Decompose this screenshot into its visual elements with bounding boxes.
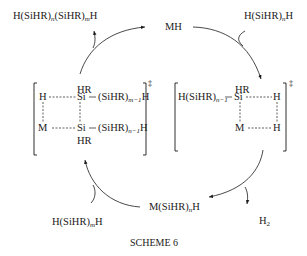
reactant-hydrosilane-m: H(SiHR)mH xyxy=(52,217,103,229)
arrow-top-to-right xyxy=(193,27,261,79)
scheme-caption: SCHEME 6 xyxy=(130,238,178,248)
reactant-hydrosilane-n: H(SiHR)nH xyxy=(244,11,293,23)
right-ts-si: Si xyxy=(234,92,243,103)
metal-silyl-intermediate: M(SiHR)nH xyxy=(149,202,200,214)
left-ts-chain-bottom: (SiHR)n−1H xyxy=(98,123,148,135)
left-ts-si-bottom: Si xyxy=(77,123,86,134)
right-ts-h-top: H xyxy=(273,92,281,103)
right-ts-chain: H(SiHR)n−1 xyxy=(178,92,228,104)
left-ts-h: H xyxy=(39,92,47,103)
arrow-h2-out xyxy=(245,187,248,204)
left-ts-si-top: Si xyxy=(77,92,86,103)
arrow-reactant-bottom-in xyxy=(91,185,95,203)
right-ts-m: M xyxy=(235,123,244,134)
arrow-left-to-top xyxy=(80,27,145,74)
arrow-right-to-bottom xyxy=(209,150,263,197)
right-bracket-close xyxy=(283,83,286,151)
right-ts-h-bottom: H xyxy=(273,123,281,134)
catalyst-mh: MH xyxy=(165,22,182,33)
left-ts-dagger: ‡ xyxy=(148,80,152,88)
right-ts-dagger: ‡ xyxy=(289,80,293,88)
left-bracket-open xyxy=(34,83,37,155)
arrow-product-out xyxy=(93,31,95,48)
left-ts-m: M xyxy=(38,123,47,134)
byproduct-h2: H2 xyxy=(259,216,270,228)
left-ts-hr-bottom: HR xyxy=(77,136,92,147)
product-polysilane: H(SiHR)n(SiHR)mH xyxy=(13,11,97,23)
left-ts-chain-top: (SiHR)m−1H xyxy=(98,92,149,104)
